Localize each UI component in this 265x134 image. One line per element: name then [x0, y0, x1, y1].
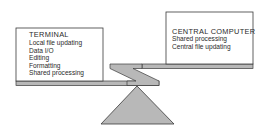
terminal-item: Shared processing	[29, 69, 84, 77]
terminal-title: TERMINAL	[29, 30, 69, 39]
central-computer-box: CENTRAL COMPUTER Shared processing Centr…	[166, 12, 255, 64]
right-beam	[142, 64, 253, 69]
terminal-item: Data I/O	[29, 47, 54, 54]
central-computer-item: Central file updating	[172, 43, 231, 51]
terminal-box: TERMINAL Local file updating Data I/O Ed…	[16, 28, 103, 81]
fulcrum-triangle	[101, 86, 174, 124]
balance-scale-diagram: TERMINAL Local file updating Data I/O Ed…	[0, 0, 265, 134]
